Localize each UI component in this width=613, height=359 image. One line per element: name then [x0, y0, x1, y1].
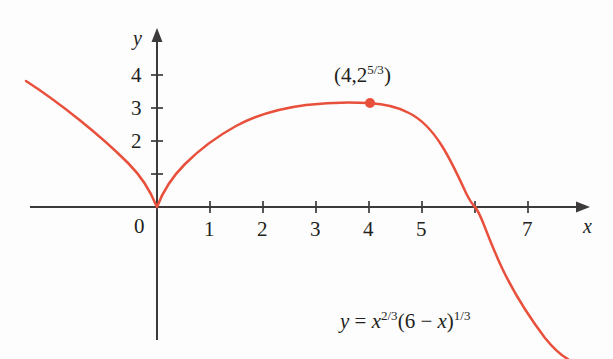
y-tick-label-2: 2: [131, 131, 142, 152]
x-tick-label-2: 2: [257, 219, 268, 240]
x-tick-label-4: 4: [363, 219, 374, 240]
equation-base-x: x: [372, 309, 381, 333]
equation-six: 6: [405, 309, 416, 333]
origin-tick-label: 0: [134, 216, 145, 237]
equation-minus: −: [420, 309, 432, 333]
x-tick-label-7: 7: [522, 219, 533, 240]
x-axis: [30, 202, 590, 213]
y-tick-label-4: 4: [131, 65, 142, 86]
plot-svg: [0, 0, 613, 359]
local-max-annotation-exponent: 5/3: [367, 62, 384, 77]
function-curve: [26, 81, 568, 359]
y-axis-label: y: [133, 28, 142, 48]
equation-exponent-one-third: 1/3: [454, 308, 471, 323]
figure-canvas: y x 0 4 3 2 1 2 3 4 5 7 (4,25/3) y = x2/…: [0, 0, 613, 359]
x-tick-label-5: 5: [416, 219, 427, 240]
local-max-annotation-post: ): [384, 63, 391, 87]
x-tick-label-1: 1: [204, 219, 215, 240]
local-max-annotation: (4,25/3): [334, 63, 391, 86]
equation-exponent-two-thirds: 2/3: [381, 308, 398, 323]
local-max-marker: [365, 98, 375, 108]
equation-var-x: x: [437, 309, 446, 333]
equation-paren-close: ): [447, 309, 454, 333]
x-axis-label: x: [583, 216, 592, 236]
equation-lhs: y: [340, 309, 349, 333]
equation-label: y = x2/3(6 − x)1/3: [340, 309, 470, 332]
local-max-annotation-pre: (4,2: [334, 63, 367, 87]
x-tick-label-3: 3: [310, 219, 321, 240]
equation-paren-open: (: [398, 309, 405, 333]
equation-equals: =: [355, 309, 367, 333]
y-tick-label-3: 3: [131, 98, 142, 119]
